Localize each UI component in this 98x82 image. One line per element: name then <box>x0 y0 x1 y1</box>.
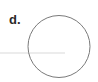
circle-shape <box>28 16 90 78</box>
panel-label: d. <box>9 13 21 27</box>
